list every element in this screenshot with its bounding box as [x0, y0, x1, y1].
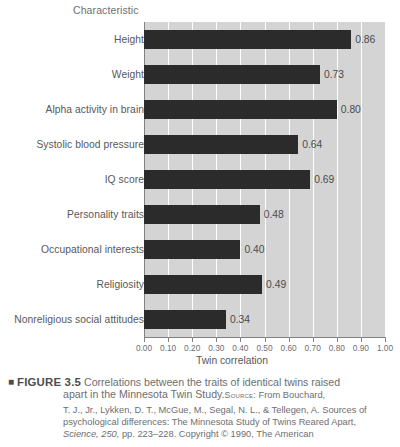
bar-value-label: 0.73: [324, 69, 344, 80]
x-axis-tick: [313, 337, 314, 342]
caption-line1-text: Correlations between the traits of ident…: [84, 376, 340, 388]
x-axis-tick-label: 0.20: [184, 343, 200, 353]
caption-line5: Science, 250, pp. 223–228. Copyright © 1…: [63, 428, 396, 440]
x-axis-tick-label: 0.60: [281, 343, 297, 353]
journal-volume: 250,: [99, 429, 120, 439]
bar-value-label: 0.34: [230, 314, 250, 325]
bar-value-label: 0.49: [266, 279, 286, 290]
x-axis-tick: [289, 337, 290, 342]
caption-line3: T. J., Jr., Lykken, D. T., McGue, M., Se…: [63, 404, 396, 416]
x-axis-tick: [337, 337, 338, 342]
caption-line2-text: apart in the Minnesota Twin Study.: [63, 388, 225, 400]
bar-value-label: 0.80: [341, 104, 361, 115]
characteristic-axis-title: Characteristic: [73, 4, 139, 16]
caption-square-icon: ■: [8, 376, 14, 387]
x-axis-tick-label: 0.50: [256, 343, 272, 353]
bar: [144, 275, 262, 294]
caption-line4: psychological differences: The Minnesota…: [63, 416, 396, 428]
category-label: Nonreligious social attitudes: [14, 314, 144, 325]
gridline: [361, 22, 362, 337]
x-axis-tick-label: 0.90: [353, 343, 369, 353]
category-label: Personality traits: [67, 209, 144, 220]
figure-number: FIGURE 3.5: [17, 376, 81, 388]
x-axis-tick: [385, 337, 386, 342]
category-label: Religiosity: [97, 279, 144, 290]
x-axis-tick: [192, 337, 193, 342]
category-label: Alpha activity in brain: [46, 104, 144, 115]
x-axis-tick: [361, 337, 362, 342]
bar: [144, 310, 226, 329]
journal-name: Science,: [63, 429, 99, 439]
category-label: Weight: [112, 69, 144, 80]
x-axis-tick-label: 0.40: [232, 343, 248, 353]
x-axis-title-text: Twin correlation: [196, 355, 268, 366]
x-axis-tick-label: 0.00: [136, 343, 152, 353]
bar: [144, 100, 337, 119]
bar: [144, 205, 260, 224]
x-axis-tick-label: 1.00: [377, 343, 393, 353]
caption-line5-rest: pp. 223–228. Copyright © 1990, The Ameri…: [119, 429, 313, 439]
category-label: Occupational interests: [41, 244, 144, 255]
source-label: Source:: [225, 390, 256, 400]
category-label: IQ score: [105, 174, 144, 185]
x-axis-tick: [168, 337, 169, 342]
source-after-text: From Bouchard,: [256, 390, 325, 400]
x-axis-tick-label: 0.10: [160, 343, 176, 353]
bar-value-label: 0.40: [244, 244, 264, 255]
x-axis-tick-label: 0.80: [329, 343, 345, 353]
bar: [144, 30, 351, 49]
bar: [144, 135, 298, 154]
bar: [144, 170, 310, 189]
bar-value-label: 0.69: [314, 174, 334, 185]
caption-first-line: ■ FIGURE 3.5 Correlations between the tr…: [8, 376, 396, 389]
x-axis-tick-label: 0.30: [208, 343, 224, 353]
gridline: [385, 22, 386, 337]
bar-value-label: 0.48: [264, 209, 284, 220]
category-label: Height: [114, 34, 144, 45]
x-axis-title: Twin correlation: [0, 355, 400, 366]
x-axis-tick: [240, 337, 241, 342]
caption-source-block: T. J., Jr., Lykken, D. T., McGue, M., Se…: [63, 404, 396, 440]
bar-value-label: 0.86: [355, 34, 375, 45]
bar-value-label: 0.64: [302, 139, 322, 150]
x-axis-tick: [144, 337, 145, 342]
category-label: Systolic blood pressure: [36, 139, 144, 150]
caption-second-line: apart in the Minnesota Twin Study.Source…: [63, 388, 396, 402]
x-axis-tick: [265, 337, 266, 342]
figure-container: Characteristic 0.000.100.200.300.400.500…: [0, 0, 400, 375]
x-axis-tick-label: 0.70: [305, 343, 321, 353]
bar: [144, 65, 320, 84]
x-axis-tick: [216, 337, 217, 342]
bar: [144, 240, 240, 259]
figure-caption: ■ FIGURE 3.5 Correlations between the tr…: [8, 376, 396, 440]
